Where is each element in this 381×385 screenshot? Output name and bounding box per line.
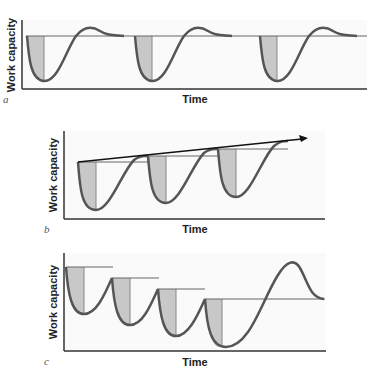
y-axis-label-c: Work capacity — [47, 264, 59, 339]
plot-area-c — [65, 253, 326, 351]
y-axis-label-a: Work capacity — [5, 17, 17, 92]
x-axis-label-c: Time — [182, 356, 207, 368]
figure: Work capacity Time a Work capacity Time … — [0, 0, 381, 385]
panel-label-b: b — [44, 223, 50, 235]
panel-c: Work capacity Time c — [44, 253, 326, 368]
x-axis-label-b: Time — [182, 223, 207, 235]
panel-label-c: c — [44, 355, 49, 367]
panel-b: Work capacity Time b — [44, 131, 325, 235]
x-axis-label-a: Time — [182, 93, 207, 105]
y-axis-label-b: Work capacity — [47, 137, 59, 212]
panel-label-a: a — [3, 93, 9, 105]
panel-a: Work capacity Time a — [3, 17, 367, 105]
